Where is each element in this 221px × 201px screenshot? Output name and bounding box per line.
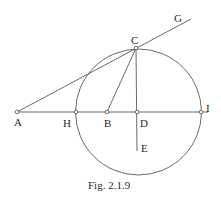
label-D: D bbox=[140, 117, 148, 129]
point-D bbox=[135, 110, 139, 114]
point-A bbox=[15, 110, 19, 114]
label-B: B bbox=[104, 117, 111, 129]
line-AG bbox=[17, 19, 191, 112]
label-C: C bbox=[131, 34, 138, 46]
label-I: I bbox=[206, 102, 210, 114]
point-C bbox=[134, 46, 138, 50]
label-G: G bbox=[174, 12, 182, 24]
point-B bbox=[105, 110, 109, 114]
label-A: A bbox=[14, 116, 22, 128]
point-I bbox=[199, 110, 203, 114]
point-H bbox=[74, 110, 78, 114]
figure-caption: Fig. 2.1.9 bbox=[88, 179, 131, 191]
label-E: E bbox=[141, 142, 148, 154]
label-H: H bbox=[63, 117, 71, 129]
line-CE bbox=[136, 48, 137, 151]
geometry-figure: A H B D I C E G Fig. 2.1.9 bbox=[0, 0, 221, 201]
line-CB bbox=[107, 48, 136, 112]
